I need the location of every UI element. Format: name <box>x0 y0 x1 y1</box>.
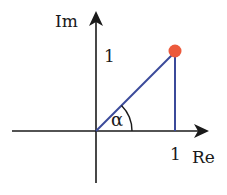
complex-point <box>169 45 182 58</box>
y-axis-label: Im <box>55 11 78 31</box>
y-tick-label: 1 <box>104 46 115 66</box>
x-tick-label: 1 <box>170 144 181 164</box>
complex-plane-diagram: Im 1 α 1 Re <box>0 0 227 195</box>
x-axis-label: Re <box>192 147 215 167</box>
angle-label: α <box>111 109 123 130</box>
